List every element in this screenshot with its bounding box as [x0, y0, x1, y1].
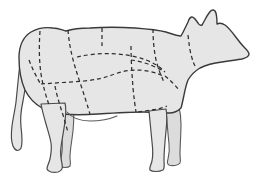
beef-cuts-diagram: [0, 0, 253, 177]
cow-illustration: [0, 0, 253, 177]
foreleg-far: [166, 107, 181, 166]
foreleg-near: [149, 109, 167, 172]
